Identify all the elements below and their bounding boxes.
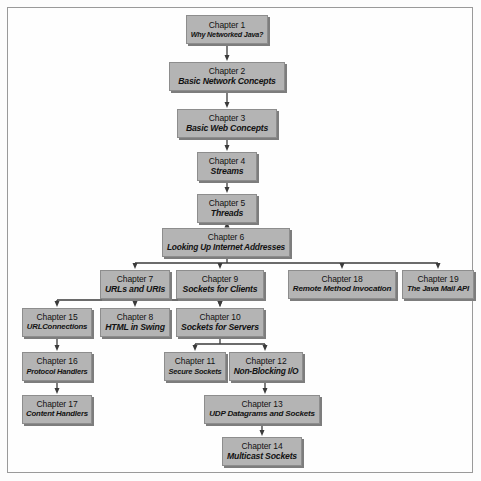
node-title-label: HTML in Swing [105, 323, 165, 332]
node-title-label: The Java Mail API [407, 285, 469, 293]
node-title-label: Why Networked Java? [191, 31, 264, 39]
node-title-label: Basic Web Concepts [186, 124, 268, 133]
node-ch10[interactable]: Chapter 10Sockets for Servers [176, 308, 264, 337]
node-ch7[interactable]: Chapter 7URLs and URIs [100, 270, 170, 299]
node-title-label: Basic Network Concepts [178, 77, 275, 86]
node-ch4[interactable]: Chapter 4Streams [197, 152, 257, 181]
node-chapter-label: Chapter 11 [175, 357, 215, 366]
node-title-label: Sockets for Servers [181, 323, 259, 332]
node-chapter-label: Chapter 17 [36, 400, 77, 409]
node-title-label: Threads [211, 209, 243, 218]
node-title-label: Content Handlers [26, 410, 88, 418]
node-ch11[interactable]: Chapter 11Secure Sockets [164, 352, 226, 381]
node-chapter-label: Chapter 6 [208, 233, 244, 242]
node-chapter-label: Chapter 14 [241, 442, 282, 451]
node-ch17[interactable]: Chapter 17Content Handlers [22, 395, 92, 424]
node-title-label: Secure Sockets [168, 368, 221, 376]
node-chapter-label: Chapter 4 [209, 157, 245, 166]
node-title-label: URLs and URIs [105, 285, 165, 294]
node-title-label: Sockets for Clients [183, 285, 258, 294]
node-title-label: UDP Datagrams and Sockets [209, 410, 315, 419]
node-ch18[interactable]: Chapter 18Remote Method Invocation [288, 270, 396, 299]
node-chapter-label: Chapter 3 [209, 114, 245, 123]
node-chapter-label: Chapter 5 [209, 199, 245, 208]
node-chapter-label: Chapter 13 [241, 400, 282, 409]
node-chapter-label: Chapter 2 [209, 67, 245, 76]
node-ch6[interactable]: Chapter 6Looking Up Internet Addresses [162, 228, 290, 257]
node-ch1[interactable]: Chapter 1Why Networked Java? [186, 15, 268, 44]
node-title-label: URLConnections [27, 323, 87, 331]
node-ch19[interactable]: Chapter 19The Java Mail API [402, 270, 474, 299]
node-ch14[interactable]: Chapter 14Multicast Sockets [222, 437, 302, 466]
node-title-label: Looking Up Internet Addresses [167, 243, 285, 252]
node-ch3[interactable]: Chapter 3Basic Web Concepts [177, 109, 277, 138]
node-ch5[interactable]: Chapter 5Threads [197, 194, 257, 223]
node-title-label: Multicast Sockets [227, 452, 297, 461]
node-ch9[interactable]: Chapter 9Sockets for Clients [176, 270, 264, 299]
node-chapter-label: Chapter 1 [209, 21, 245, 30]
node-chapter-label: Chapter 18 [321, 275, 362, 284]
node-chapter-label: Chapter 12 [245, 357, 286, 366]
node-ch12[interactable]: Chapter 12Non-Blocking I/O [229, 352, 303, 381]
node-chapter-label: Chapter 8 [117, 313, 153, 322]
node-chapter-label: Chapter 7 [117, 275, 153, 284]
node-ch8[interactable]: Chapter 8HTML in Swing [100, 308, 170, 337]
node-chapter-label: Chapter 16 [36, 357, 77, 366]
node-title-label: Streams [211, 167, 244, 176]
node-ch13[interactable]: Chapter 13UDP Datagrams and Sockets [204, 395, 320, 424]
node-ch15[interactable]: Chapter 15URLConnections [22, 308, 92, 337]
node-chapter-label: Chapter 19 [417, 275, 458, 284]
node-chapter-label: Chapter 9 [202, 275, 238, 284]
node-title-label: Protocol Handlers [26, 368, 87, 376]
node-title-label: Remote Method Invocation [293, 285, 391, 294]
node-chapter-label: Chapter 10 [199, 313, 240, 322]
node-ch16[interactable]: Chapter 16Protocol Handlers [22, 352, 92, 381]
node-chapter-label: Chapter 15 [36, 313, 77, 322]
flowchart-page: Chapter 1Why Networked Java?Chapter 2Bas… [0, 0, 481, 481]
node-ch2[interactable]: Chapter 2Basic Network Concepts [169, 62, 285, 91]
node-title-label: Non-Blocking I/O [234, 367, 299, 376]
flowchart-nodes: Chapter 1Why Networked Java?Chapter 2Bas… [0, 0, 481, 481]
